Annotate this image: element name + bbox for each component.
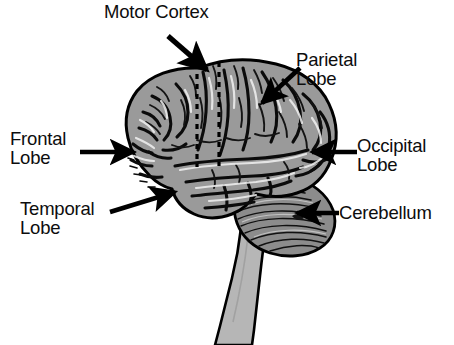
label-motor-cortex: Motor Cortex <box>104 2 209 21</box>
label-frontal-lobe: Frontal Lobe <box>10 129 66 167</box>
arrow-temporal-lobe <box>110 192 175 212</box>
label-parietal-lobe: Parietal Lobe <box>296 50 357 88</box>
label-cerebellum: Cerebellum <box>339 203 432 222</box>
brain-diagram-figure: Motor Cortex Parietal Lobe Frontal Lobe … <box>0 0 454 345</box>
label-temporal-lobe: Temporal Lobe <box>20 199 95 237</box>
label-occipital-lobe: Occipital Lobe <box>357 136 426 174</box>
arrow-motor-cortex <box>168 36 207 70</box>
